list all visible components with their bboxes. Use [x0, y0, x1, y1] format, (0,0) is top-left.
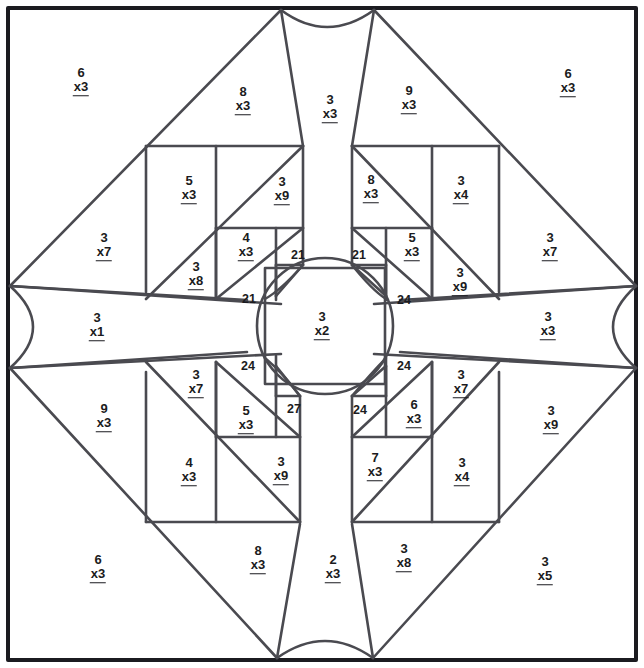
mosaic-artwork [0, 0, 644, 668]
petal-right-arc [613, 286, 636, 368]
arc-ll-notch [265, 358, 300, 396]
petal-bottom-left-edge [277, 524, 300, 658]
ll-diag-step [216, 362, 300, 437]
lr-baseline [374, 354, 636, 368]
petal-top-right-edge [352, 10, 374, 146]
worksheet-canvas: 6 x3 8 x3 3 x3 9 x3 6 x3 5 x3 3 x9 8 x3 … [0, 0, 644, 668]
page-border [8, 8, 636, 660]
lr-diag-main [352, 362, 499, 522]
petal-left-arc [10, 286, 33, 368]
petal-bottom-right-edge [352, 524, 373, 658]
ur-diag-main [352, 146, 499, 299]
diag-upper-right [374, 10, 636, 286]
diag-lower-right [373, 368, 636, 658]
petal-bottom-arc [277, 641, 373, 658]
arc-lr-notch [352, 358, 386, 396]
ul-diag-step [216, 228, 303, 299]
petal-top-left-edge [281, 10, 303, 146]
petal-top-arc [281, 10, 374, 27]
diag-lower-left [10, 368, 277, 658]
lr-diag-step [352, 362, 432, 437]
arc-ul-notch [265, 265, 303, 299]
ur-baseline [374, 286, 636, 304]
ur-diag-step [352, 228, 432, 299]
